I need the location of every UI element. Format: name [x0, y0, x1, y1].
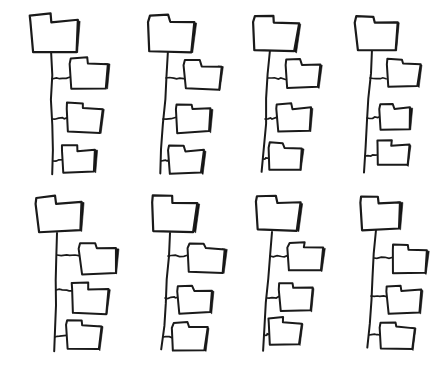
folder-body [187, 243, 225, 273]
folder-icon[interactable] [30, 13, 81, 54]
folder-icon[interactable] [177, 285, 214, 314]
tree-branch-line [268, 78, 286, 80]
folder-body [392, 245, 426, 274]
folder-icon[interactable] [285, 59, 322, 89]
tree-branch-line [168, 255, 187, 257]
folder-icon[interactable] [268, 142, 304, 170]
folder-icon[interactable] [70, 57, 111, 90]
folder-body [255, 195, 300, 231]
folder-tree [151, 195, 227, 351]
folder-icon[interactable] [279, 283, 315, 313]
folder-body [285, 59, 320, 89]
tree-branch-line [166, 78, 184, 79]
folder-body [377, 140, 410, 165]
folder-tree [30, 13, 111, 175]
drawing-canvas [0, 0, 447, 375]
folder-icon[interactable] [379, 322, 416, 350]
tree-branch-line [267, 296, 279, 298]
folder-body [268, 317, 302, 346]
folder-icon[interactable] [171, 322, 209, 352]
folder-tree-diagram-grid [0, 0, 447, 375]
folder-body [79, 243, 117, 275]
folder-icon[interactable] [255, 195, 302, 231]
tree-branch-line [52, 77, 69, 79]
tree-trunk-line [51, 50, 53, 174]
folder-icon[interactable] [168, 145, 206, 174]
folder-body [355, 15, 399, 51]
folder-icon[interactable] [66, 102, 104, 133]
folder-icon[interactable] [386, 59, 422, 88]
tree-branch-line [367, 117, 379, 119]
folder-body [183, 60, 222, 90]
folder-body [287, 242, 324, 271]
folder-icon[interactable] [360, 196, 403, 231]
folder-icon[interactable] [151, 195, 199, 233]
folder-body [276, 103, 312, 132]
folder-tree [147, 14, 223, 174]
tree-trunk-line [367, 230, 376, 348]
folder-icon[interactable] [187, 243, 227, 273]
folder-icon[interactable] [276, 103, 313, 133]
folder-icon[interactable] [386, 285, 423, 314]
tree-trunk-line [54, 233, 57, 351]
folder-body [176, 104, 211, 133]
tree-branch-line [370, 78, 386, 79]
folder-body [168, 145, 204, 174]
tree-trunk-line [160, 50, 168, 173]
tree-branch-line [371, 296, 388, 297]
folder-icon[interactable] [183, 60, 224, 91]
folder-body [65, 320, 101, 350]
folder-icon[interactable] [252, 15, 301, 53]
folder-body [279, 283, 313, 311]
folder-icon[interactable] [379, 104, 413, 131]
tree-branch-line [365, 155, 377, 156]
folder-icon[interactable] [355, 15, 400, 51]
folder-body [151, 195, 197, 232]
folder-body [71, 282, 109, 314]
folder-icon[interactable] [62, 144, 98, 173]
folder-body [177, 285, 212, 313]
folder-body [252, 15, 299, 51]
folder-icon[interactable] [377, 140, 411, 167]
folder-tree [255, 195, 325, 350]
tree-branch-line [56, 289, 73, 291]
tree-branch-line [163, 117, 176, 119]
tree-trunk-line [161, 233, 170, 349]
tree-branch-line [270, 255, 288, 256]
folder-tree [252, 15, 322, 172]
folder-icon[interactable] [65, 320, 103, 351]
folder-icon[interactable] [79, 243, 120, 275]
folder-tree [360, 196, 429, 351]
tree-branch-line [374, 257, 393, 258]
folder-icon[interactable] [147, 14, 196, 53]
folder-icon[interactable] [35, 195, 85, 233]
folder-body [379, 104, 410, 130]
folder-body [147, 14, 194, 52]
folder-icon[interactable] [287, 242, 326, 272]
folder-icon[interactable] [392, 245, 429, 275]
folder-icon[interactable] [71, 282, 110, 315]
folder-body [360, 196, 400, 231]
folder-body [268, 142, 302, 170]
tree-trunk-line [364, 49, 372, 173]
folder-body [386, 285, 421, 314]
folder-body [379, 322, 415, 349]
folder-body [171, 322, 207, 352]
folder-tree [355, 15, 422, 172]
tree-branch-line [57, 255, 79, 256]
folder-tree [35, 195, 119, 352]
folder-body [35, 195, 82, 233]
folder-body [386, 59, 420, 88]
tree-branch-line [55, 335, 67, 337]
folder-icon[interactable] [268, 317, 303, 346]
folder-body [66, 102, 103, 133]
folder-body [30, 13, 79, 54]
folder-body [70, 57, 109, 89]
folder-icon[interactable] [176, 104, 214, 134]
folder-body [62, 144, 96, 172]
